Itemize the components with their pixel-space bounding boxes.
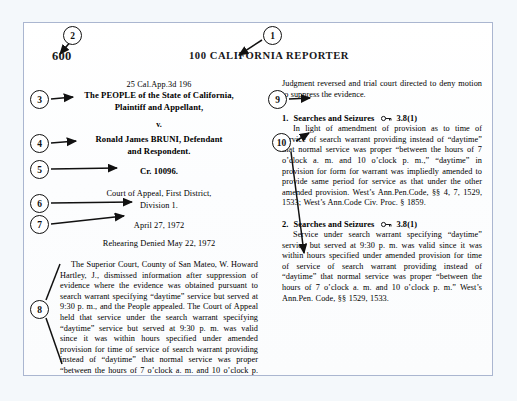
left-column: 25 Cal.App.3d 196 The PEOPLE of the Stat… <box>60 79 258 376</box>
headnote-1-topic: Searches and Seizures <box>293 114 374 123</box>
headnote-1-number: 1. <box>282 114 288 123</box>
west-key-icon <box>381 221 392 228</box>
headnote-2-key-number: 3.8(1) <box>396 220 417 229</box>
callout-marker-6[interactable]: 6 <box>30 194 49 213</box>
headnote-2-heading: 2. Searches and Seizures 3.8(1) <box>282 220 482 229</box>
docket-number: Cr. 10096. <box>60 166 258 176</box>
callout-marker-1[interactable]: 1 <box>263 26 282 45</box>
callout-marker-9[interactable]: 9 <box>268 90 287 109</box>
case-syllabus: The Superior Court, County of San Mateo,… <box>60 260 258 376</box>
disposition-paragraph: Judgment reversed and trial court direct… <box>282 79 482 100</box>
headnote-1-key-number: 3.8(1) <box>396 114 417 123</box>
callout-marker-3[interactable]: 3 <box>30 90 49 109</box>
callout-marker-10[interactable]: 10 <box>272 133 291 152</box>
court-name-line1: Court of Appeal, First District, <box>60 188 258 200</box>
court-name-line2: Division 1. <box>60 200 258 212</box>
headnote-1-body: In light of amendment of provision as to… <box>282 124 482 209</box>
defendant-role: and Respondent. <box>60 146 258 158</box>
west-key-icon <box>381 115 392 122</box>
running-head-title: 100 CALIFORNIA REPORTER <box>24 50 492 61</box>
case-citation: 25 Cal.App.3d 196 <box>60 79 258 90</box>
rehearing-date: Rehearing Denied May 22, 1972 <box>60 239 258 248</box>
reporter-page: 600 100 CALIFORNIA REPORTER 25 Cal.App.3… <box>23 22 493 376</box>
plaintiff-name: The PEOPLE of the State of California, <box>60 90 258 102</box>
defendant-name: Ronald James BRUNI, Defendant <box>60 134 258 146</box>
headnote-1: 1. Searches and Seizures 3.8(1) In light… <box>282 114 482 209</box>
headnote-2-topic: Searches and Seizures <box>293 220 374 229</box>
callout-marker-5[interactable]: 5 <box>30 160 49 179</box>
versus-separator: v. <box>60 120 258 129</box>
headnote-2: 2. Searches and Seizures 3.8(1) Service … <box>282 220 482 304</box>
headnote-2-number: 2. <box>282 220 288 229</box>
headnote-1-heading: 1. Searches and Seizures 3.8(1) <box>282 114 482 123</box>
headnote-2-body: Service under search warrant specifying … <box>282 230 482 304</box>
callout-marker-7[interactable]: 7 <box>30 215 49 234</box>
callout-marker-2[interactable]: 2 <box>63 26 82 45</box>
plaintiff-role: Plaintiff and Appellant, <box>60 102 258 114</box>
callout-marker-4[interactable]: 4 <box>30 134 49 153</box>
decision-date: April 27, 1972 <box>60 220 258 232</box>
callout-marker-8[interactable]: 8 <box>30 300 49 319</box>
right-column: Judgment reversed and trial court direct… <box>282 79 482 313</box>
